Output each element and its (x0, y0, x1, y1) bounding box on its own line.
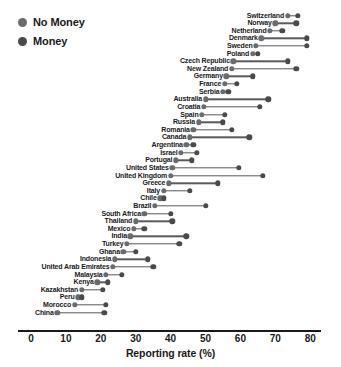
data-point-money (250, 74, 255, 79)
data-point-money (304, 43, 309, 48)
data-point-no-money (168, 173, 173, 178)
connector-line (171, 175, 263, 176)
data-point-no-money (124, 241, 129, 246)
data-point-no-money (187, 135, 192, 140)
connector-line (113, 266, 153, 267)
x-tick-20: 20 (95, 333, 106, 344)
data-point-money (177, 241, 182, 246)
data-point-no-money (203, 97, 208, 102)
data-point-no-money (253, 43, 258, 48)
data-point-no-money (152, 203, 157, 208)
data-point-money (295, 13, 300, 18)
connector-line (204, 106, 260, 107)
connector-line (155, 205, 206, 206)
data-point-no-money (201, 104, 206, 109)
x-axis-title: Reporting rate (%) (0, 347, 341, 359)
data-point-money (145, 257, 150, 262)
data-point-no-money (79, 287, 84, 292)
x-tick-0: 0 (28, 333, 34, 344)
data-point-money (229, 127, 234, 132)
chart-row: China (0, 309, 341, 317)
data-point-money (102, 310, 107, 315)
data-point-no-money (273, 20, 278, 25)
data-point-no-money (259, 36, 264, 41)
data-point-no-money (229, 66, 234, 71)
connector-line (130, 236, 186, 237)
data-point-money (234, 81, 239, 86)
data-point-money (225, 89, 230, 94)
data-point-no-money (222, 81, 227, 86)
data-point-no-money (178, 150, 183, 155)
x-tick-10: 10 (60, 333, 71, 344)
data-point-money (161, 196, 166, 201)
x-tick-30: 30 (130, 333, 141, 344)
data-point-no-money (199, 112, 204, 117)
connector-line (206, 99, 269, 100)
dumbbell-chart: No Money Money SwitzerlandNorwayNetherla… (0, 0, 341, 367)
x-tick-50: 50 (200, 333, 211, 344)
data-point-no-money (161, 188, 166, 193)
data-point-money (79, 295, 84, 300)
connector-line (233, 61, 287, 62)
data-point-no-money (166, 180, 171, 185)
data-point-money (133, 249, 138, 254)
data-point-money (285, 59, 290, 64)
data-point-money (280, 28, 285, 33)
data-point-money (294, 20, 299, 25)
data-point-money (246, 135, 251, 140)
data-point-no-money (224, 74, 229, 79)
data-point-no-money (121, 249, 126, 254)
data-point-money (100, 287, 105, 292)
data-point-no-money (196, 119, 201, 124)
data-point-money (189, 158, 194, 163)
plot-area: SwitzerlandNorwayNetherlandDenmarkSweden… (0, 0, 341, 367)
data-point-money (257, 104, 262, 109)
data-point-money (266, 97, 271, 102)
data-point-money (260, 173, 265, 178)
x-tick-40: 40 (165, 333, 176, 344)
connector-line (256, 45, 307, 46)
data-point-no-money (128, 234, 133, 239)
connector-line (169, 182, 218, 183)
connector-line (144, 213, 170, 214)
data-point-money (203, 203, 208, 208)
data-point-no-money (231, 59, 236, 64)
x-tick-80: 80 (305, 333, 316, 344)
data-point-money (194, 150, 199, 155)
connector-line (232, 68, 297, 69)
connector-line (136, 221, 173, 222)
data-point-money (236, 165, 241, 170)
data-point-no-money (142, 211, 147, 216)
data-point-no-money (170, 165, 175, 170)
data-point-no-money (285, 13, 290, 18)
data-point-money (187, 188, 192, 193)
connector-line (190, 137, 249, 138)
connector-line (57, 312, 104, 313)
data-point-money (170, 219, 175, 224)
x-axis-line (18, 330, 321, 332)
data-point-money (220, 119, 225, 124)
data-point-money (255, 51, 260, 56)
connector-line (127, 243, 179, 244)
data-point-no-money (267, 28, 272, 33)
connector-line (115, 259, 148, 260)
country-label: China (35, 309, 54, 317)
connector-line (164, 190, 190, 191)
data-point-no-money (72, 302, 77, 307)
data-point-no-money (112, 257, 117, 262)
data-point-no-money (54, 310, 59, 315)
data-point-no-money (173, 158, 178, 163)
data-point-money (184, 234, 189, 239)
data-point-no-money (184, 142, 189, 147)
data-point-money (222, 112, 227, 117)
data-point-money (191, 142, 196, 147)
data-point-money (150, 264, 155, 269)
connector-line (261, 38, 306, 39)
data-point-no-money (110, 264, 115, 269)
data-point-no-money (191, 127, 196, 132)
data-point-no-money (133, 219, 138, 224)
data-point-no-money (95, 279, 100, 284)
data-point-money (294, 66, 299, 71)
data-point-money (215, 180, 220, 185)
data-point-money (142, 226, 147, 231)
